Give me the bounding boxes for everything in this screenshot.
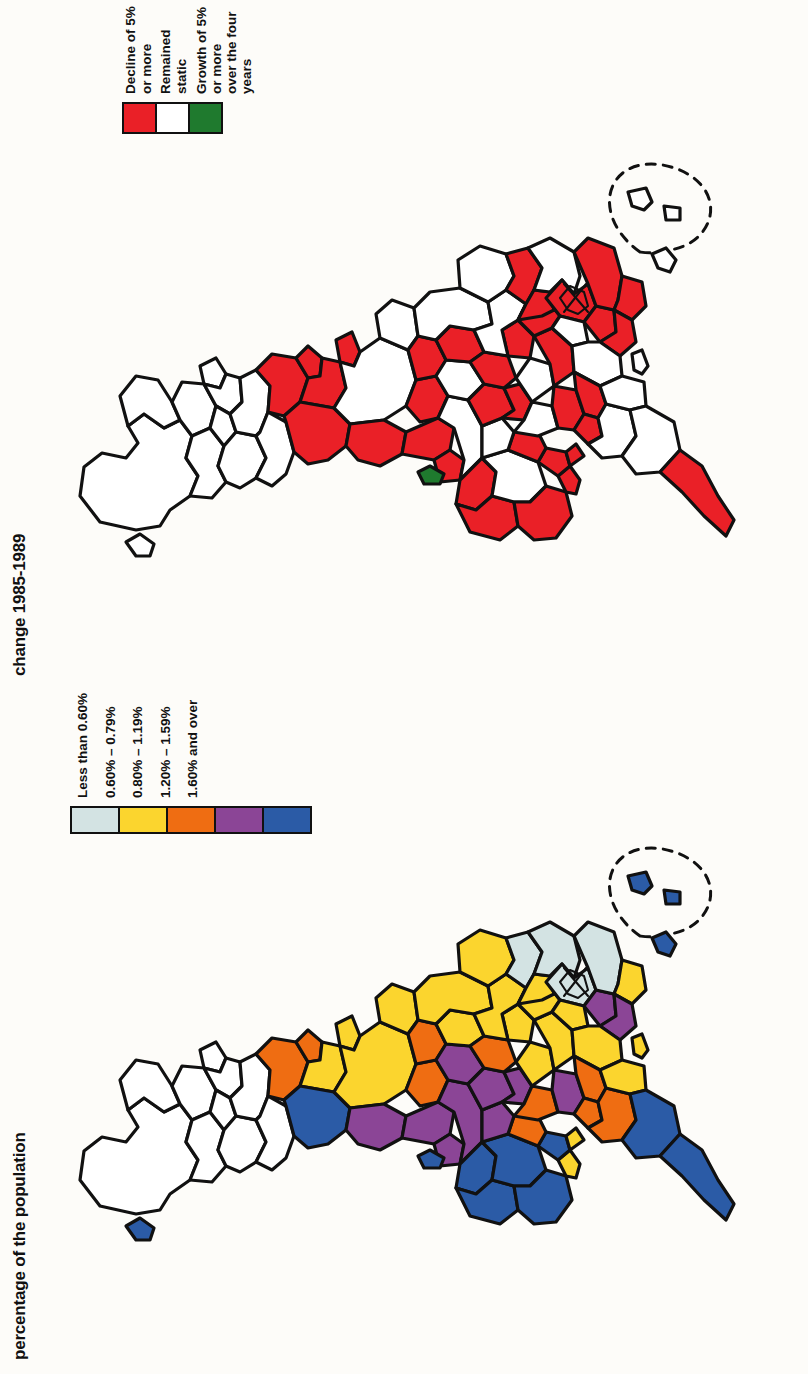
region-jersey <box>628 872 652 894</box>
legend-label-decline: Decline of 5% or more <box>122 0 156 94</box>
legend-percentage: Less than 0.60% 0.60% – 0.79% 0.80% – 1.… <box>70 693 312 834</box>
legend-swatch-strip-change <box>122 102 223 134</box>
legend-label-060-079: 0.60% – 0.79% <box>98 693 125 798</box>
region-highland <box>80 1098 198 1214</box>
legend-label-growth: Growth of 5% or more over the four years <box>193 0 228 94</box>
legend-swatch-lt060 <box>72 808 120 832</box>
legend-change: Decline of 5% or more Remained static Gr… <box>122 0 230 134</box>
region-isle-of-wight <box>632 1034 648 1058</box>
region-cornwall <box>660 1134 734 1220</box>
map-panel-change: change 1985-1989 Decline of 5% or more R… <box>0 0 808 690</box>
map-panel-percentage: percentage of the population Less than 0… <box>0 684 808 1374</box>
region-lancashire <box>346 420 406 466</box>
panel-title-change: change 1985-1989 <box>10 534 30 676</box>
legend-swatch-decline <box>124 104 157 132</box>
legend-swatch-static <box>157 104 190 132</box>
region-scottish-isles-w <box>126 1218 154 1240</box>
legend-swatch-080-119 <box>168 808 216 832</box>
map-artwork-change <box>40 152 785 672</box>
region-cornwall <box>660 450 734 536</box>
region-highland <box>80 414 198 530</box>
region-south-glamorgan <box>566 444 584 466</box>
legend-label-120-159: 1.20% – 1.59% <box>153 693 180 798</box>
region-south-glamorgan <box>566 1128 584 1150</box>
region-guernsey <box>664 206 680 220</box>
atlas-page: change 1985-1989 Decline of 5% or more R… <box>0 0 808 1374</box>
map-artwork-percentage <box>40 836 785 1356</box>
legend-swatch-060-079 <box>120 808 168 832</box>
uk-map-percentage-svg <box>40 836 785 1356</box>
region-isles-of-scilly-marker <box>652 932 676 956</box>
legend-label-static: Remained static <box>158 0 192 94</box>
channel-islands-inset-outline <box>609 164 710 253</box>
region-guernsey <box>664 890 680 904</box>
region-lancashire <box>346 1104 406 1150</box>
legend-label-160plus: 1.60% and over <box>180 693 207 798</box>
uk-map-change-svg <box>40 152 785 672</box>
legend-swatch-strip-percentage <box>70 806 312 834</box>
legend-swatch-120-159 <box>216 808 264 832</box>
region-jersey <box>628 188 652 210</box>
legend-swatch-160plus <box>264 808 310 832</box>
panel-title-percentage: percentage of the population <box>10 1132 30 1360</box>
region-isles-of-scilly-marker <box>652 248 676 272</box>
legend-swatch-growth <box>190 104 221 132</box>
region-scottish-isles-w <box>126 534 154 556</box>
channel-islands-inset-outline <box>609 848 710 937</box>
region-isle-of-wight <box>632 350 648 374</box>
legend-label-080-119: 0.80% – 1.19% <box>125 693 152 798</box>
legend-label-lt060: Less than 0.60% <box>70 693 97 798</box>
